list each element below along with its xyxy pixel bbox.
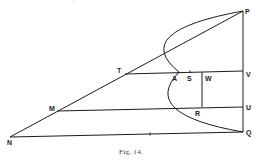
label-T: T [117,67,122,74]
segment-NQ [10,132,243,137]
label-R: R [195,110,200,117]
label-U: U [246,104,251,111]
label-A: A [172,75,177,82]
top-text-fragment: .. [72,0,75,2]
label-W: W [205,75,212,82]
line-segments [10,11,243,137]
label-P: P [245,8,250,15]
label-Q: Q [246,129,252,137]
segment-TV [125,71,243,74]
label-V: V [246,71,251,78]
figure-caption: Fig. 14. [0,148,262,156]
geometry-figure: PTASWVMURQN [0,0,262,164]
label-N: N [7,139,12,146]
point-labels: PTASWVMURQN [7,8,252,146]
top-text-fragment: - [106,0,108,2]
segment-MU [57,107,243,111]
label-M: M [49,105,55,112]
label-S: S [187,75,192,82]
